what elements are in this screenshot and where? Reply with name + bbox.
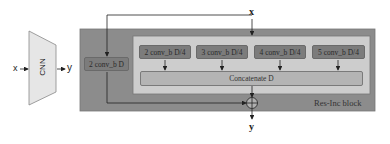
shortcut-conv-box: 2 conv_b D — [84, 57, 129, 71]
branch-conv-box: 5 conv_b D/4 — [312, 45, 365, 59]
concatenate-box: Concatenate D — [140, 71, 363, 86]
branch-conv-box: 2 conv_b D/4 — [139, 45, 191, 59]
cnn-output-label: y — [67, 63, 72, 73]
cnn-input-label: x — [13, 64, 18, 73]
res-inc-block-title: Res-Inc block — [314, 99, 361, 108]
branch-conv-box: 3 conv_b D/4 — [196, 45, 248, 59]
res-inc-output-label: y — [249, 122, 254, 132]
branch-conv-box: 4 conv_b D/4 — [254, 45, 306, 59]
res-inc-input-label: x — [249, 7, 254, 17]
cnn-block-label: CNN — [39, 52, 47, 82]
